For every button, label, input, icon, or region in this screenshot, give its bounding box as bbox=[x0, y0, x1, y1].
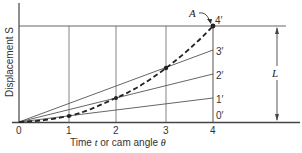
label-3prime: 3′ bbox=[216, 46, 224, 57]
x-label-middle: or cam angle bbox=[97, 137, 160, 148]
cam-displacement-diagram: A 4′ 3′ 2′ 1′ 0′ L 0 1 2 3 4 Time t or c… bbox=[0, 0, 302, 153]
label-0prime: 0′ bbox=[216, 110, 224, 121]
dimension-arrow-top-icon bbox=[275, 27, 279, 34]
label-4prime: 4′ bbox=[215, 15, 223, 26]
dimension-arrow-bottom-icon bbox=[275, 114, 279, 121]
arrowhead-icon bbox=[207, 19, 212, 24]
label-2prime: 2′ bbox=[216, 70, 224, 81]
x-label-theta: θ bbox=[161, 137, 166, 148]
x-tick-3: 3 bbox=[163, 125, 169, 136]
x-axis-label: Time t or cam angle θ bbox=[70, 137, 166, 148]
point-2 bbox=[114, 96, 118, 100]
dimension-label-l: L bbox=[271, 67, 278, 79]
point-3 bbox=[164, 66, 168, 70]
x-tick-4: 4 bbox=[210, 125, 216, 136]
x-label-prefix: Time bbox=[70, 137, 95, 148]
x-tick-2: 2 bbox=[113, 125, 119, 136]
annotation-a: A bbox=[188, 7, 196, 19]
x-tick-0: 0 bbox=[16, 125, 22, 136]
label-1prime: 1′ bbox=[216, 94, 224, 105]
y-axis-label: Displacement S bbox=[4, 27, 15, 97]
point-1 bbox=[67, 114, 71, 118]
x-tick-1: 1 bbox=[66, 125, 72, 136]
